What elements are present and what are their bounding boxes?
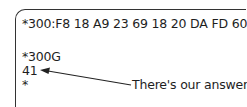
annotation-label: There's our answer (132, 78, 247, 92)
